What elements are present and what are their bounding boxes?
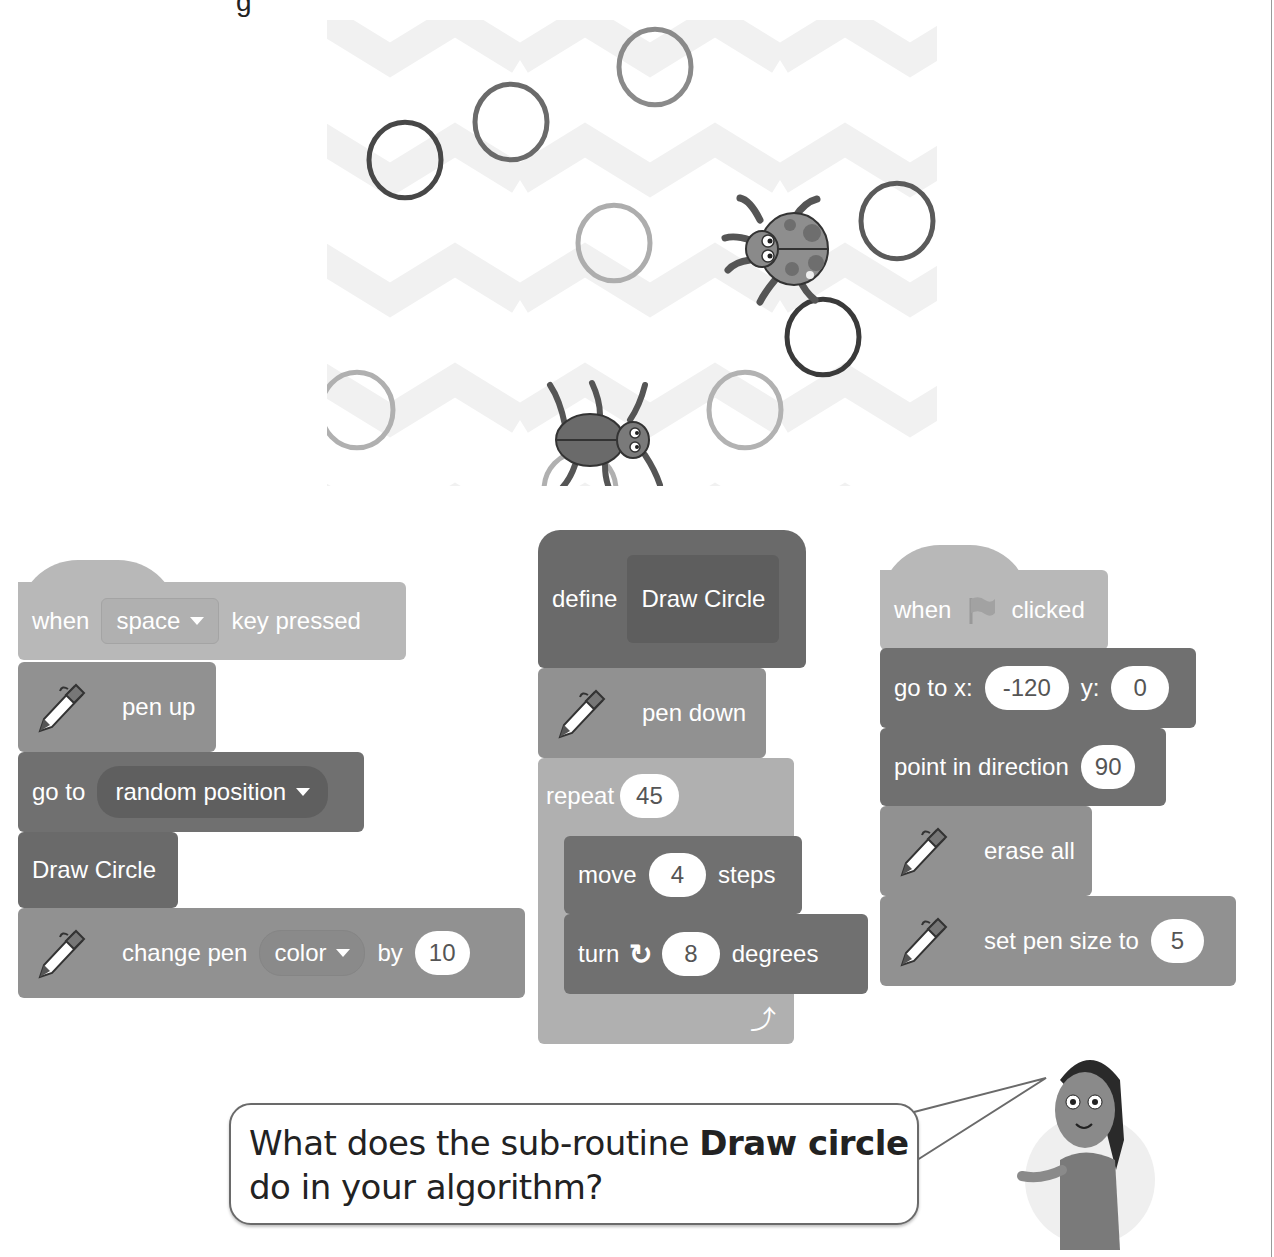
pen-icon <box>32 677 92 737</box>
point-direction-label: point in direction <box>888 753 1075 781</box>
set-pen-size-block[interactable]: set pen size to 5 <box>880 896 1236 986</box>
draw-circle-call-block[interactable]: Draw Circle <box>18 832 178 908</box>
point-in-direction-block[interactable]: point in direction 90 <box>880 728 1166 806</box>
clicked-label: clicked <box>1005 596 1090 624</box>
by-label: by <box>371 939 408 967</box>
pen-up-label: pen up <box>116 693 201 721</box>
key-dropdown[interactable]: space <box>101 598 219 644</box>
speech-bubble: What does the sub-routine Draw circle do… <box>229 1103 919 1225</box>
pen-icon <box>552 683 612 743</box>
move-steps-block[interactable]: move 4 steps <box>564 836 802 914</box>
repeat-label: repeat <box>546 782 614 810</box>
chevron-down-icon <box>190 617 204 625</box>
custom-block-prototype[interactable]: Draw Circle <box>627 555 779 643</box>
x-input[interactable]: -120 <box>985 666 1069 710</box>
change-amount-input[interactable]: 10 <box>415 931 470 975</box>
change-pen-label: change pen <box>116 939 253 967</box>
go-to-block[interactable]: go to random position <box>18 752 364 832</box>
move-label: move <box>572 861 643 889</box>
set-pen-size-label: set pen size to <box>978 927 1145 955</box>
speech-text: What does the sub-routine Draw circle do… <box>249 1121 908 1209</box>
when-label: when <box>26 607 95 635</box>
turn-label: turn <box>572 940 625 968</box>
go-to-xy-block[interactable]: go to x: -120 y: 0 <box>880 648 1196 728</box>
loop-arrow-icon: ⤴ <box>750 999 776 1036</box>
degrees-label: degrees <box>726 940 825 968</box>
pen-down-block[interactable]: pen down <box>538 668 766 758</box>
repeat-count-input[interactable]: 45 <box>620 774 679 818</box>
when-key-pressed-block[interactable]: when space key pressed <box>18 582 406 660</box>
rotate-clockwise-icon: ↻ <box>629 938 652 971</box>
chevron-down-icon <box>296 788 310 796</box>
pen-param-dropdown[interactable]: color <box>259 930 365 976</box>
direction-input[interactable]: 90 <box>1081 745 1136 789</box>
y-input[interactable]: 0 <box>1111 666 1168 710</box>
move-steps-input[interactable]: 4 <box>649 853 706 897</box>
pen-up-block[interactable]: pen up <box>18 662 216 752</box>
y-label: y: <box>1075 674 1106 702</box>
pen-icon <box>32 923 92 983</box>
erase-all-block[interactable]: erase all <box>880 806 1092 896</box>
pen-down-label: pen down <box>636 699 752 727</box>
scratch-stage <box>327 20 937 486</box>
go-to-label: go to <box>26 778 91 806</box>
draw-circle-call-label: Draw Circle <box>26 856 162 884</box>
turn-degrees-input[interactable]: 8 <box>662 932 719 976</box>
define-block[interactable]: define Draw Circle <box>538 530 806 668</box>
go-to-x-label: go to x: <box>888 674 979 702</box>
key-pressed-label: key pressed <box>225 607 366 635</box>
change-pen-color-block[interactable]: change pen color by 10 <box>18 908 525 998</box>
when-label: when <box>888 596 957 624</box>
define-label: define <box>546 585 623 613</box>
stage-canvas <box>327 20 937 486</box>
chevron-down-icon <box>336 949 350 957</box>
pen-icon <box>894 911 954 971</box>
steps-label: steps <box>712 861 781 889</box>
when-flag-clicked-block[interactable]: when clicked <box>880 570 1108 650</box>
girl-character-illustration <box>1000 1040 1160 1250</box>
green-flag-icon <box>965 594 997 626</box>
page-edge-line <box>1271 0 1272 1257</box>
speech-bold-term: Draw circle <box>699 1123 908 1163</box>
cropped-heading-fragment: g <box>236 0 252 18</box>
erase-all-label: erase all <box>978 837 1081 865</box>
turn-degrees-block[interactable]: turn ↻ 8 degrees <box>564 914 868 994</box>
go-to-target-dropdown[interactable]: random position <box>97 766 328 818</box>
pen-size-input[interactable]: 5 <box>1151 919 1204 963</box>
pen-icon <box>894 821 954 881</box>
